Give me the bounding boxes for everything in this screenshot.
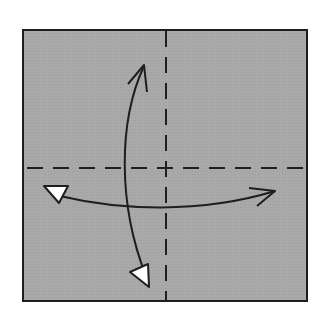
origami-diagram: Square paper with valley-fold crease lin… bbox=[0, 0, 328, 320]
diagram-canvas bbox=[0, 0, 328, 320]
